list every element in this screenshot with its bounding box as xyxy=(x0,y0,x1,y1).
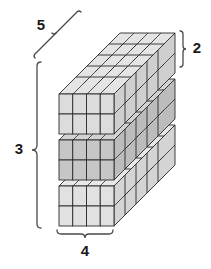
figure-canvas: 5 2 3 4 xyxy=(0,0,211,269)
bottom-layer-front-faces xyxy=(59,186,114,226)
middle-layer-front-faces xyxy=(59,140,114,180)
stack-height-label: 3 xyxy=(15,140,23,157)
layer-height-brace xyxy=(180,31,186,67)
stack-height-brace xyxy=(32,62,41,228)
top-layer-front-faces xyxy=(59,94,114,134)
width-label: 4 xyxy=(81,242,90,259)
width-brace xyxy=(57,230,113,238)
cube-stack-diagram: 5 2 3 4 xyxy=(0,0,211,269)
layer-height-label: 2 xyxy=(193,39,201,56)
depth-label: 5 xyxy=(37,16,45,33)
